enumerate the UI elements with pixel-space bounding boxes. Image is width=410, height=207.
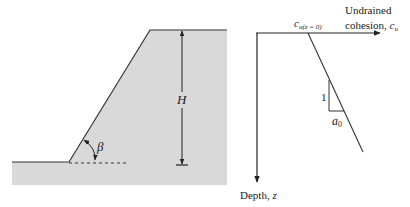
cohesion-profile-line xyxy=(308,33,363,152)
angle-label: β xyxy=(96,139,104,154)
slope-horizontal-label: a0 xyxy=(332,114,342,129)
y-axis-label: Depth, z xyxy=(240,189,277,201)
slope-diagram: β H xyxy=(12,30,227,185)
height-label: H xyxy=(176,92,187,107)
figure-canvas: β H 1 a0 cu(z = 0) Undrained cohesion, c… xyxy=(0,0,410,207)
slope-vertical-label: 1 xyxy=(321,91,327,103)
cohesion-profile-diagram: 1 a0 cu(z = 0) Undrained cohesion, cu De… xyxy=(240,4,399,201)
x-axis-label-line1: Undrained xyxy=(345,4,392,16)
x-axis-label-line2: cohesion, cu xyxy=(345,19,399,33)
intercept-label: cu(z = 0) xyxy=(294,17,322,31)
